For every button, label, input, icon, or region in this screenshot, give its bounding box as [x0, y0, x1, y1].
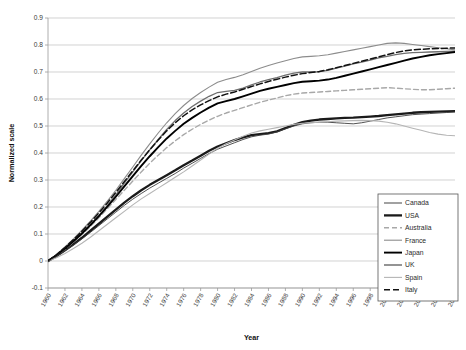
legend-label-usa: USA [405, 212, 419, 219]
x-axis-tick-label: 1990 [293, 292, 306, 308]
legend-label-japan: Japan [405, 249, 424, 257]
legend-label-uk: UK [405, 261, 415, 268]
x-axis-tick-label: 1996 [344, 292, 357, 308]
chart-container: 0.90.80.70.60.50.40.30.20.10-0.119601962… [0, 0, 466, 350]
x-axis-tick-label: 1986 [259, 292, 272, 308]
legend-label-canada: Canada [405, 199, 429, 206]
legend-box [378, 194, 458, 301]
x-axis-tick-label: 1964 [73, 292, 86, 308]
y-axis-tick-label: 0.4 [34, 149, 43, 156]
line-chart: 0.90.80.70.60.50.40.30.20.10-0.119601962… [0, 0, 466, 350]
x-axis-tick-label: 1988 [276, 292, 289, 308]
y-axis-tick-label: 0.9 [34, 14, 43, 21]
x-axis-tick-label: 1978 [192, 292, 205, 308]
y-axis-title: Normalized scale [7, 124, 16, 183]
legend-label-australia: Australia [405, 224, 432, 231]
y-axis-tick-label: 0 [39, 257, 43, 264]
x-axis-tick-label: 1970 [124, 292, 137, 308]
x-axis-tick-label: 1960 [39, 292, 52, 308]
y-axis-tick-label: -0.1 [32, 284, 44, 291]
x-axis-tick-label: 1980 [209, 292, 222, 308]
x-axis-tick-label: 1992 [310, 292, 323, 308]
legend-label-italy: Italy [405, 286, 418, 294]
x-axis-tick-label: 1972 [141, 292, 154, 308]
x-axis-tick-label: 1976 [175, 292, 188, 308]
legend-label-spain: Spain [405, 274, 423, 282]
x-axis-tick-label: 1994 [327, 292, 340, 308]
x-axis-tick-label: 1974 [158, 292, 171, 308]
y-axis-tick-label: 0.7 [34, 68, 43, 75]
x-axis-tick-label: 1984 [242, 292, 255, 308]
y-axis-tick-label: 0.2 [34, 203, 43, 210]
x-axis-tick-label: 1998 [361, 292, 374, 308]
x-axis-tick-label: 1982 [226, 292, 239, 308]
x-axis-tick-label: 1966 [90, 292, 103, 308]
x-axis-tick-label: 1962 [56, 292, 69, 308]
x-axis-title: Year [244, 333, 259, 342]
y-axis-tick-label: 0.3 [34, 176, 43, 183]
legend-label-france: France [405, 237, 426, 244]
y-axis-tick-label: 0.6 [34, 95, 43, 102]
y-axis-tick-label: 0.8 [34, 41, 43, 48]
y-axis-tick-label: 0.1 [34, 230, 43, 237]
y-axis-tick-label: 0.5 [34, 122, 43, 129]
x-axis-tick-label: 1968 [107, 292, 120, 308]
